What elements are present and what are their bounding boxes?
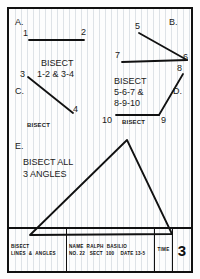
point-label-9: 9 [161,116,166,125]
section-c-letter: C. [15,87,24,96]
instruction-bd-line3: 8-9-10 [114,99,140,108]
instruction-d-small: BISECT [122,119,145,125]
point-label-7: 7 [115,51,120,60]
worksheet-sheet: A. 1 2 B. 5 6 7 C. 3 4 BISECT D. 8 9 10 … [0,0,200,279]
course-info-line: NO. 22 SECT 100 DATE 13-5 [69,250,152,257]
instruction-bd-line2: 5-6-7 & [114,88,144,97]
title-block-sheet-number-cell: 3 [173,229,191,271]
time-label: TIME [158,246,170,253]
subject-line-1: BISECT [11,243,64,250]
point-label-3: 3 [20,70,25,79]
triangle-shape [30,140,172,235]
point-label-1: 1 [23,29,28,38]
ray-5-6 [139,33,187,60]
title-block-name-cell: NAME RALPH BASILIO NO. 22 SECT 100 DATE … [67,229,155,271]
sheet-number: 3 [178,243,186,258]
segment-3-4 [28,77,73,113]
point-label-6: 6 [183,53,188,62]
instruction-e-line2: 3 ANGLES [23,170,67,179]
drawing-frame: A. 1 2 B. 5 6 7 C. 3 4 BISECT D. 8 9 10 … [7,7,193,273]
ray-7-6 [122,60,187,62]
point-label-4: 4 [73,105,78,114]
point-label-10: 10 [102,116,112,125]
section-a-letter: A. [15,18,24,27]
point-label-2: 2 [81,28,86,37]
point-label-8: 8 [177,64,182,73]
instruction-c-small: BISECT [27,122,50,128]
section-e-letter: E. [15,142,24,151]
instruction-ac-line2: 1-2 & 3-4 [37,70,74,79]
title-block: BISECT LINES & ANGLES NAME RALPH BASILIO… [9,229,191,271]
instruction-e-line1: BISECT ALL [23,158,73,167]
instruction-ac-line1: BISECT [41,59,74,68]
title-block-time-cell: TIME [155,229,173,271]
title-block-subject-cell: BISECT LINES & ANGLES [9,229,67,271]
student-name-line: NAME RALPH BASILIO [69,243,152,250]
section-d-letter: D. [173,87,182,96]
section-b-letter: B. [169,18,178,27]
instruction-bd-line1: BISECT [114,77,147,86]
point-label-5: 5 [135,22,140,31]
subject-line-2: LINES & ANGLES [11,250,64,257]
